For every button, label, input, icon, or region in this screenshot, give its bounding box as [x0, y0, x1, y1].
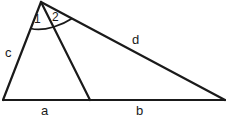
angle-2-label: 2: [52, 10, 59, 24]
side-b-label: b: [136, 103, 143, 116]
angle-1-label: 1: [34, 12, 41, 26]
triangle-diagram: 1 2 c d a b: [0, 0, 228, 116]
side-c-label: c: [5, 45, 12, 60]
diagram-canvas: 1 2 c d a b: [0, 0, 228, 116]
side-a-label: a: [41, 103, 49, 116]
angle-1-arc: [31, 27, 54, 29]
side-d-label: d: [132, 32, 139, 47]
cevian-line: [41, 2, 90, 100]
side-d-line: [41, 2, 225, 100]
